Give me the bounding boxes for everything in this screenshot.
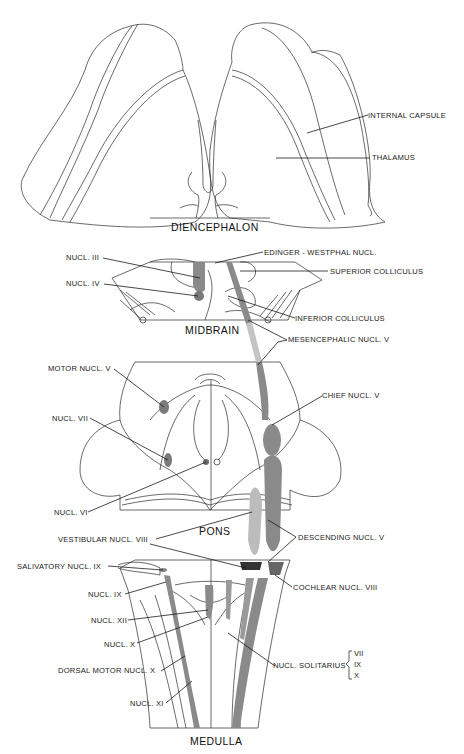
label-thalamus: THALAMUS bbox=[372, 154, 415, 162]
pons-outline bbox=[80, 362, 341, 510]
label-motor-nucl-v: MOTOR NUCL. V bbox=[48, 365, 111, 373]
label-nucl-xii: NUCL. XII bbox=[91, 617, 127, 625]
label-nucl-iv: NUCL. IV bbox=[66, 280, 100, 288]
label-nucl-vii: NUCL. VII bbox=[52, 415, 88, 423]
nerve-ix: IX bbox=[354, 659, 363, 670]
label-cochlear-nucl-viii: COCHLEAR NUCL. VIII bbox=[293, 584, 377, 592]
label-internal-capsule: INTERNAL CAPSULE bbox=[368, 112, 446, 120]
label-nucl-xi: NUCL. XI bbox=[130, 700, 164, 708]
label-nucl-x: NUCL. X bbox=[104, 641, 135, 649]
label-inferior-colliculus: INFERIOR COLLICULUS bbox=[295, 315, 385, 323]
diencephalon-outline bbox=[21, 23, 385, 228]
label-nucl-vi: NUCL. VI bbox=[54, 509, 88, 517]
section-title-diencephalon: DIENCEPHALON bbox=[171, 222, 259, 233]
label-solitarius-nerves: VII IX X bbox=[354, 648, 363, 681]
label-nucl-iii: NUCL. III bbox=[66, 254, 99, 262]
label-edinger-westphal: EDINGER - WESTPHAL NUCL. bbox=[264, 249, 377, 257]
label-nucl-ix: NUCL. IX bbox=[88, 591, 122, 599]
label-mesencephalic-nucl-v: MESENCEPHALIC NUCL. V bbox=[288, 336, 389, 344]
label-vestibular-nucl-viii: VESTIBULAR NUCL. VIII bbox=[58, 536, 148, 544]
section-title-midbrain: MIDBRAIN bbox=[185, 325, 240, 336]
midbrain-outline bbox=[112, 259, 322, 323]
label-chief-nucl-v: CHIEF NUCL. V bbox=[322, 392, 379, 400]
label-descending-nucl-v: DESCENDING NUCL. V bbox=[298, 534, 384, 542]
label-dorsal-motor-nucl-x: DORSAL MOTOR NUCL. X bbox=[58, 667, 155, 675]
section-title-medulla: MEDULLA bbox=[190, 736, 242, 747]
nerve-vii: VII bbox=[354, 648, 363, 659]
brainstem-diagram: DIENCEPHALON MIDBRAIN PONS MEDULLA INTER… bbox=[0, 0, 464, 754]
nerve-x: X bbox=[354, 670, 363, 681]
label-salivatory-nucl-ix: SALIVATORY NUCL. IX bbox=[17, 563, 101, 571]
label-nucl-solitarius: NUCL. SOLITARIUS bbox=[273, 662, 346, 670]
label-superior-colliculus: SUPERIOR COLLICULUS bbox=[330, 268, 423, 276]
section-title-pons: PONS bbox=[199, 526, 230, 537]
